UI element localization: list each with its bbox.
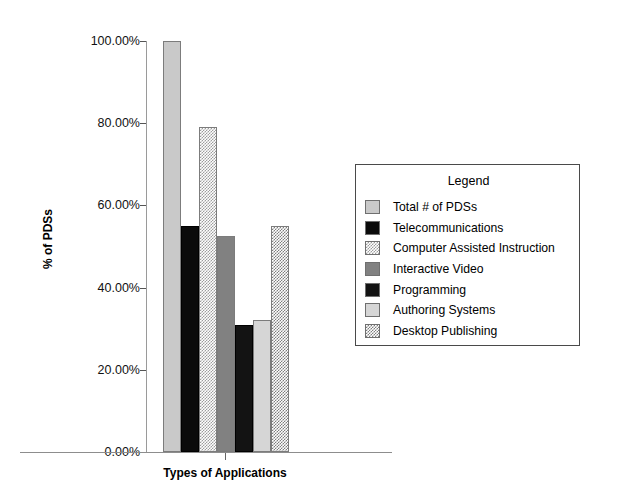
- legend-item-list: Total # of PDSsTelecommunicationsCompute…: [365, 197, 575, 341]
- bar-chart: % of PDSs 100.00%80.00%60.00%40.00%20.00…: [0, 0, 617, 501]
- legend-item-label: Programming: [393, 283, 466, 297]
- legend-swatch-icon: [365, 283, 380, 297]
- bar: [181, 226, 199, 452]
- bar: [163, 41, 181, 452]
- legend-item-label: Authoring Systems: [393, 303, 495, 317]
- x-axis-tick-mark: [225, 453, 226, 460]
- bar-group: [163, 41, 289, 452]
- legend-item[interactable]: Authoring Systems: [365, 300, 575, 321]
- bar: [217, 236, 235, 452]
- y-tick-label: 40.00%: [44, 282, 140, 294]
- legend-item[interactable]: Interactive Video: [365, 259, 575, 280]
- y-axis-line: [146, 41, 147, 453]
- bar: [199, 127, 217, 452]
- y-tick-label: 60.00%: [44, 199, 140, 211]
- legend-item[interactable]: Desktop Publishing: [365, 321, 575, 342]
- legend-swatch-icon: [365, 241, 380, 255]
- legend-item-label: Total # of PDSs: [393, 200, 477, 214]
- bar: [235, 325, 253, 452]
- legend-swatch-icon: [365, 200, 380, 214]
- legend-item-label: Telecommunications: [393, 221, 503, 235]
- bar: [253, 320, 271, 452]
- legend-item-label: Desktop Publishing: [393, 324, 497, 338]
- legend-item-label: Computer Assisted Instruction: [393, 241, 555, 255]
- legend-item[interactable]: Computer Assisted Instruction: [365, 238, 575, 259]
- x-axis-title: Types of Applications: [90, 466, 360, 480]
- x-axis-line: [20, 452, 392, 453]
- legend: Legend Total # of PDSsTelecommunications…: [355, 164, 580, 346]
- legend-item[interactable]: Programming: [365, 279, 575, 300]
- y-tick-label: 20.00%: [44, 364, 140, 376]
- legend-swatch-icon: [365, 262, 380, 276]
- y-tick-label: 100.00%: [44, 35, 140, 47]
- bar: [271, 226, 289, 452]
- legend-title: Legend: [356, 174, 581, 188]
- y-tick-label: 80.00%: [44, 117, 140, 129]
- legend-swatch-icon: [365, 221, 380, 235]
- legend-item[interactable]: Total # of PDSs: [365, 197, 575, 218]
- legend-item-label: Interactive Video: [393, 262, 484, 276]
- legend-swatch-icon: [365, 324, 380, 338]
- legend-item[interactable]: Telecommunications: [365, 218, 575, 239]
- legend-swatch-icon: [365, 303, 380, 317]
